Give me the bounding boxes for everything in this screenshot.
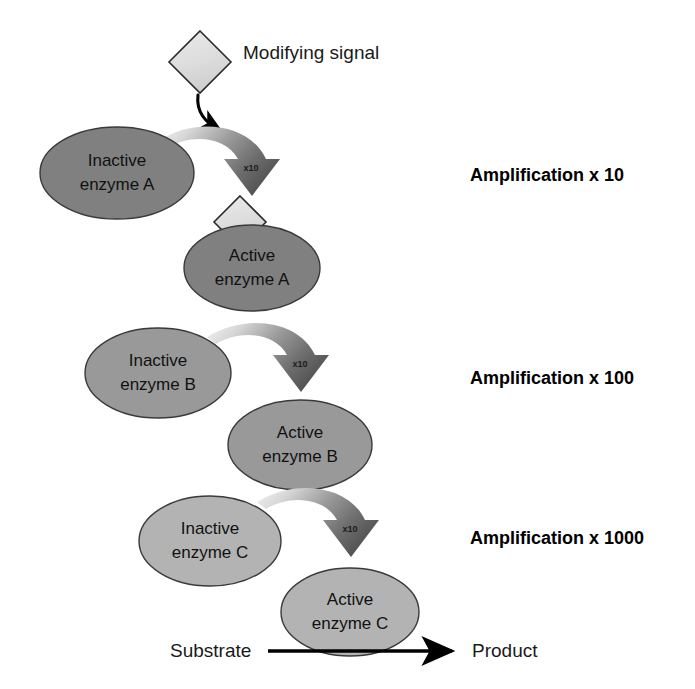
modifying-signal-label: Modifying signal xyxy=(243,42,379,63)
modifying-signal-group: Modifying signal xyxy=(169,31,379,131)
amplify-arrow-a-step-label: x10 xyxy=(243,163,258,173)
amplification-label-c: Amplification x 1000 xyxy=(470,528,644,548)
cascade-diagram: Modifying signal x10 Inactive enzyme A A… xyxy=(0,0,695,689)
node-active-enzyme-b-line2: enzyme B xyxy=(262,447,338,466)
amplification-label-a: Amplification x 10 xyxy=(470,165,624,185)
cascade-level-b: x10 Inactive enzyme B Active enzyme B Am… xyxy=(85,323,634,490)
node-inactive-enzyme-a-line2: enzyme A xyxy=(80,175,155,194)
node-inactive-enzyme-a[interactable] xyxy=(40,127,194,219)
node-inactive-enzyme-c-line2: enzyme C xyxy=(172,543,249,562)
amplify-arrow-b-step-label: x10 xyxy=(292,359,307,369)
node-inactive-enzyme-b-line2: enzyme B xyxy=(120,375,196,394)
node-inactive-enzyme-b[interactable] xyxy=(85,328,231,418)
diagram-canvas: Modifying signal x10 Inactive enzyme A A… xyxy=(0,0,695,689)
node-active-enzyme-b-line1: Active xyxy=(277,423,323,442)
node-inactive-enzyme-c-line1: Inactive xyxy=(181,519,240,538)
node-inactive-enzyme-a-line1: Inactive xyxy=(88,151,147,170)
cascade-level-a: x10 Inactive enzyme A Active enzyme A Am… xyxy=(40,126,624,311)
node-active-enzyme-c[interactable] xyxy=(281,568,419,656)
signal-arrow xyxy=(198,95,220,131)
node-active-enzyme-a-line2: enzyme A xyxy=(215,270,290,289)
cascade-level-c: x10 Inactive enzyme C Active enzyme C Am… xyxy=(139,488,644,656)
modifying-signal-diamond xyxy=(169,31,231,93)
node-active-enzyme-c-line2: enzyme C xyxy=(312,614,389,633)
substrate-label: Substrate xyxy=(170,640,251,661)
product-label: Product xyxy=(472,640,538,661)
node-inactive-enzyme-b-line1: Inactive xyxy=(129,351,188,370)
node-active-enzyme-a[interactable] xyxy=(184,225,320,311)
node-active-enzyme-a-line1: Active xyxy=(229,246,275,265)
amplify-arrow-c-step-label: x10 xyxy=(342,524,357,534)
node-active-enzyme-c-line1: Active xyxy=(327,590,373,609)
node-inactive-enzyme-c[interactable] xyxy=(139,496,281,586)
node-active-enzyme-b[interactable] xyxy=(228,400,372,490)
amplification-label-b: Amplification x 100 xyxy=(470,368,634,388)
